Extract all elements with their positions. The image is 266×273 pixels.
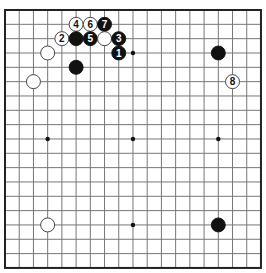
star-point: [45, 137, 49, 141]
star-point: [131, 51, 135, 55]
black-stone: [69, 32, 83, 46]
star-point: [131, 137, 135, 141]
move-number-label: 5: [88, 33, 94, 44]
move-number-label: 2: [59, 33, 65, 44]
white-stone: 8: [226, 75, 240, 89]
white-stone: [98, 32, 112, 46]
move-number-label: 6: [88, 19, 94, 30]
black-stone: 3: [112, 32, 126, 46]
star-point: [216, 137, 220, 141]
white-stone: [41, 218, 55, 232]
move-number-label: 3: [116, 33, 122, 44]
move-number-label: 7: [102, 19, 108, 30]
white-stone: 6: [83, 17, 97, 31]
black-stone: 1: [112, 46, 126, 60]
star-point: [131, 223, 135, 227]
white-stone: [41, 46, 55, 60]
move-number-label: 4: [73, 19, 79, 30]
move-number-label: 8: [230, 76, 236, 87]
move-number-label: 1: [116, 48, 122, 59]
black-stone: 5: [83, 32, 97, 46]
black-stone: [211, 46, 225, 60]
white-stone: 2: [55, 32, 69, 46]
white-stone: 4: [69, 17, 83, 31]
go-board-diagram: 46725318: [0, 0, 266, 273]
black-stone: [69, 60, 83, 74]
black-stone: [211, 218, 225, 232]
white-stone: [26, 75, 40, 89]
black-stone: 7: [98, 17, 112, 31]
